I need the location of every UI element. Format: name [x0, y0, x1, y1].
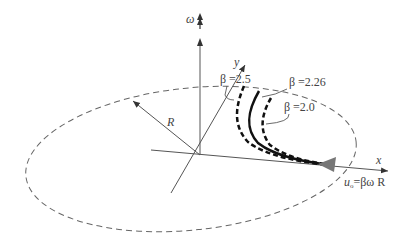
velocity-label: uo=βω R [344, 175, 385, 190]
trajectory-diagram: ω y x R β =2.5 β =2.26 β =2.0 uo=βω R [0, 0, 408, 239]
omega-arrow-icon [197, 13, 203, 46]
label-beta-2.5: β =2.5 [220, 72, 251, 86]
y-axis-label: y [233, 55, 240, 69]
label-beta-2.26: β =2.26 [289, 75, 326, 89]
label-beta-2.0: β =2.0 [284, 100, 315, 114]
rotation-circle-ellipse [18, 71, 363, 239]
velocity-label-rest: =βω R [354, 175, 386, 189]
leader-beta-2.0 [266, 114, 289, 124]
x-axis-label: x [375, 153, 382, 167]
omega-axis-label: ω [186, 12, 194, 26]
velocity-arrow-icon [318, 157, 336, 172]
radius-label: R [166, 115, 175, 129]
